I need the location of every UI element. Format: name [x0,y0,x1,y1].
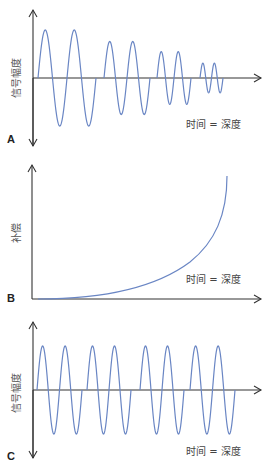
panel-c-xlabel: 时间 = 深度 [186,443,241,458]
diagram-canvas [0,0,273,474]
panel-a-ylabel: 信号幅度 [8,56,23,100]
panel-a-xlabel: 时间 = 深度 [186,116,241,131]
panel-b-xlabel: 时间 = 深度 [186,271,241,286]
panel-b-ylabel: 补偿 [8,218,23,248]
panel-c-label: C [7,450,15,462]
panel-b-label: B [7,292,15,304]
panel-c-axes [33,322,261,458]
panel-a-label: A [7,133,15,145]
panel-c-ylabel: 信号幅度 [8,371,23,415]
